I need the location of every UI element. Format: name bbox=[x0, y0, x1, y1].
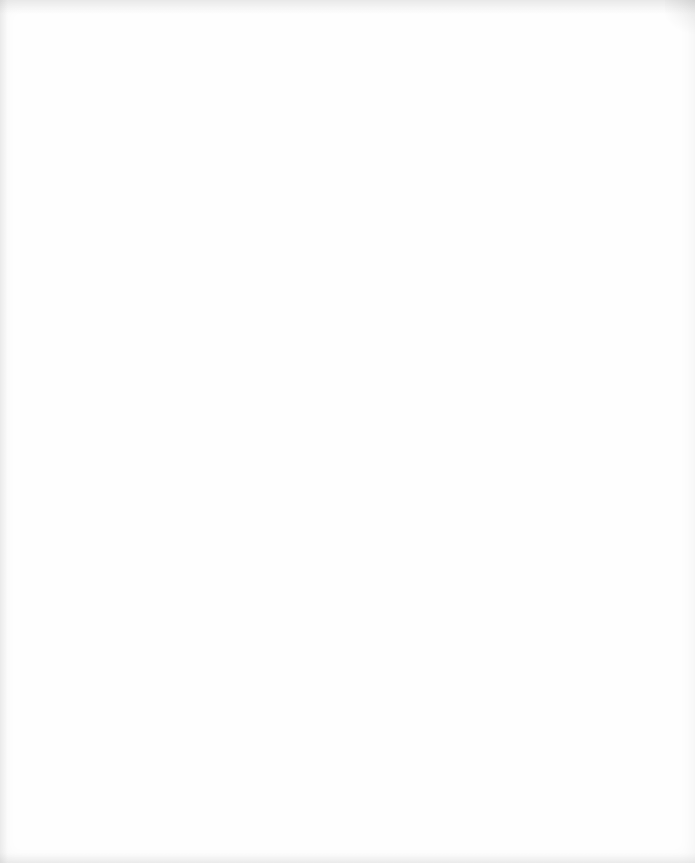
scan-shadow-corner bbox=[665, 0, 695, 40]
scan-shadow-bottom bbox=[0, 853, 695, 863]
scan-shadow-top bbox=[0, 0, 695, 14]
scan-shadow-left bbox=[0, 0, 8, 863]
scanned-page bbox=[0, 0, 695, 863]
